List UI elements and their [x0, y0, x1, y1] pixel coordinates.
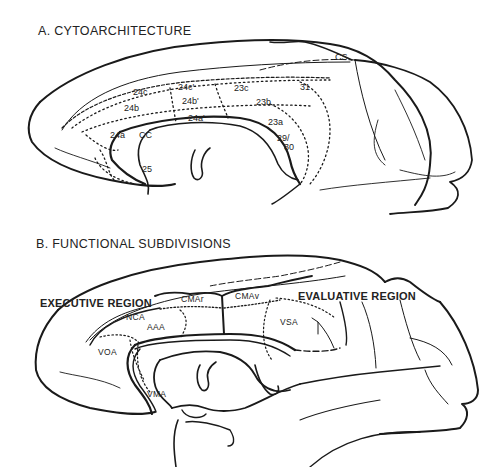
label-cmav: CMAv [235, 292, 259, 301]
label-cmar: CMAr [181, 295, 204, 304]
evaluative-region-label: EVALUATIVE REGION [298, 291, 416, 302]
brain-figure: A. CYTOARCHITECTURE [0, 0, 497, 467]
label-vsa: VSA [280, 318, 298, 327]
label-vma: VMA [147, 390, 166, 399]
panel-b-drawing [0, 0, 497, 467]
label-nca: NCA [126, 313, 145, 322]
executive-region-label: EXECUTIVE REGION [40, 298, 152, 309]
label-aaa: AAA [147, 323, 165, 332]
label-voa: VOA [98, 348, 117, 357]
